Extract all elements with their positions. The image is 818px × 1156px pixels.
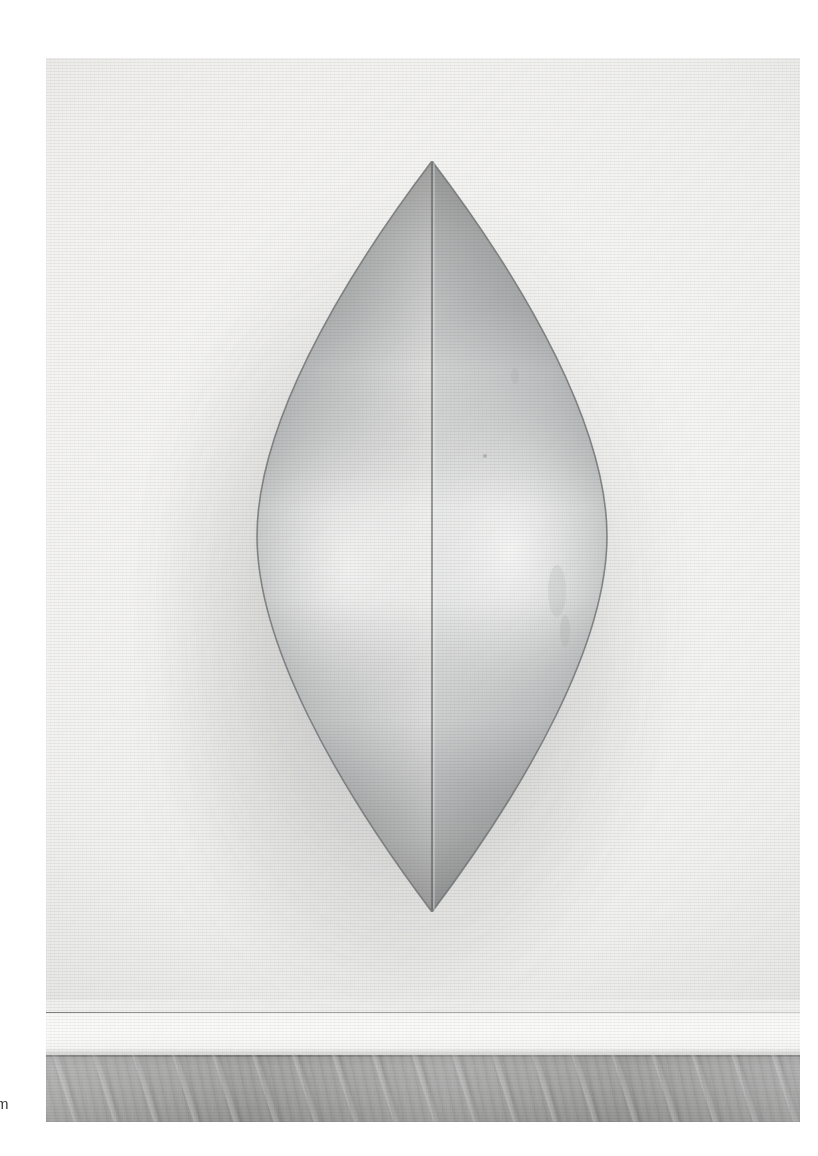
vesica-lens-relief bbox=[185, 161, 679, 912]
wood-floor bbox=[46, 1055, 800, 1122]
photographic-plate bbox=[46, 58, 800, 1122]
caption-fragment: m bbox=[0, 1093, 22, 1115]
floor-sheen bbox=[46, 1055, 800, 1122]
wall-panel-seam bbox=[46, 1012, 800, 1013]
scanned-page: m bbox=[0, 0, 818, 1156]
